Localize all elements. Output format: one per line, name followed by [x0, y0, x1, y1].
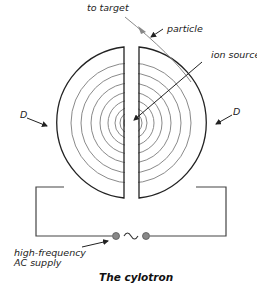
- dee-gap: [125, 44, 138, 202]
- dee-right-pointer: [216, 115, 232, 124]
- dee-left-pointer: [27, 118, 47, 126]
- ion-source-pointer: [134, 62, 202, 120]
- particle-pointer: [151, 29, 163, 37]
- diagram-title: The cylotron: [99, 271, 173, 283]
- label-dee-right: D: [233, 106, 240, 117]
- ac-terminal-right: [143, 233, 150, 240]
- label-to-target: to target: [87, 2, 130, 13]
- label-ion-source: ion source: [211, 49, 257, 60]
- ac-terminal-left: [113, 233, 120, 240]
- cyclotron-diagram: to target particle ion source D D high-f…: [0, 0, 257, 288]
- dee-left: [57, 47, 124, 198]
- label-supply-line2: AC supply: [13, 257, 62, 268]
- ac-wave-icon: [124, 233, 138, 239]
- label-dee-left: D: [20, 109, 27, 120]
- dee-right: [139, 47, 206, 198]
- label-particle: particle: [166, 23, 203, 34]
- particle-direction-arrow-icon: [138, 26, 146, 34]
